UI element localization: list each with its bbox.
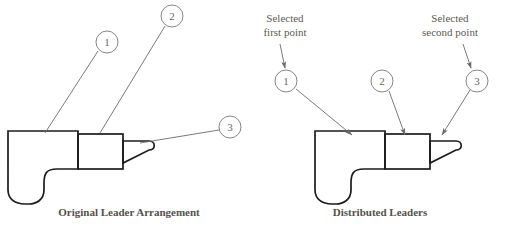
annotation-selected-first-point: Selected first point (263, 12, 306, 68)
part-midblock-outline (385, 134, 430, 169)
panel-original: 1 2 3 Original Leader Arrangement (8, 5, 241, 218)
leader-arrangement-figure: 1 2 3 Original Leader Arrangement (0, 0, 505, 230)
part-body-outline (315, 131, 385, 204)
balloon-label: 3 (227, 121, 233, 133)
balloon-3-distributed[interactable]: 3 (466, 70, 488, 92)
leader-line-3 (442, 90, 470, 135)
balloon-1-original[interactable]: 1 (96, 31, 118, 53)
annotation-arrow-icon (280, 44, 285, 68)
balloon-3-original[interactable]: 3 (219, 116, 241, 138)
part-midblock-outline (78, 134, 123, 169)
annotation-arrow-icon (463, 44, 471, 68)
part-body-outline (8, 131, 78, 204)
annotation-line-1: Selected (266, 12, 304, 24)
annotation-selected-second-point: Selected second point (422, 12, 478, 68)
caption-original: Original Leader Arrangement (58, 206, 200, 218)
leader-line-1 (296, 89, 352, 135)
leader-lines-distributed (296, 89, 470, 135)
balloon-2-distributed[interactable]: 2 (371, 70, 393, 92)
part-nose-outline (430, 141, 461, 163)
annotation-line-2: first point (263, 26, 306, 38)
balloon-2-original[interactable]: 2 (161, 5, 183, 27)
part-profile-original (8, 131, 154, 204)
balloon-label: 1 (104, 36, 110, 48)
annotation-line-1: Selected (431, 12, 469, 24)
balloon-label: 2 (169, 10, 175, 22)
leader-line-2 (389, 91, 405, 135)
balloon-label: 1 (283, 75, 289, 87)
part-nose-outline (123, 141, 154, 163)
caption-distributed: Distributed Leaders (333, 206, 428, 218)
balloon-label: 2 (379, 75, 385, 87)
leader-line-3 (140, 130, 219, 143)
annotation-line-2: second point (422, 26, 478, 38)
panel-distributed: 1 2 3 Selected first point Selected seco… (263, 12, 488, 218)
balloon-label: 3 (474, 75, 480, 87)
part-profile-distributed (315, 131, 461, 204)
leader-line-1 (45, 51, 98, 133)
leader-line-2 (100, 26, 165, 133)
balloon-1-distributed[interactable]: 1 (275, 70, 297, 92)
leader-lines-original (45, 26, 219, 143)
